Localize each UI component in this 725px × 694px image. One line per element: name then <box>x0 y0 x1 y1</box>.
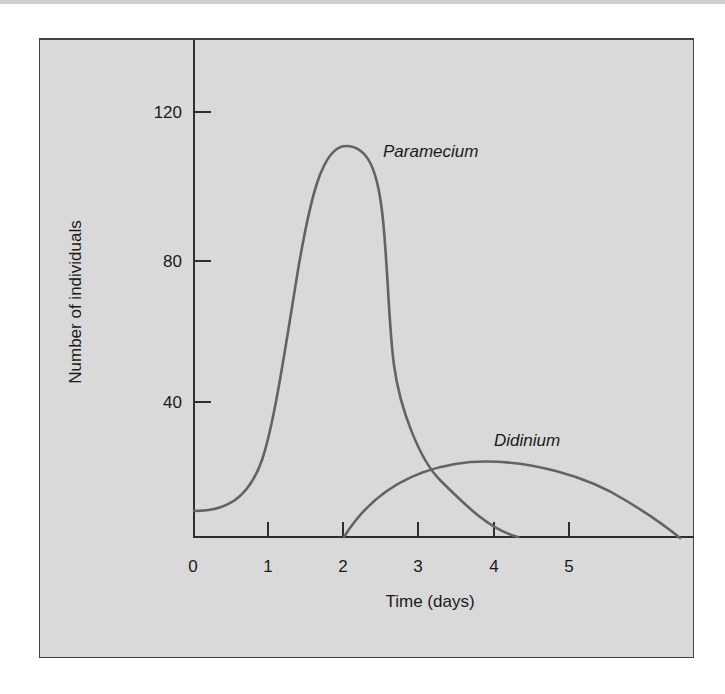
x-tick-label: 3 <box>413 557 422 576</box>
x-tick-label: 5 <box>564 557 573 576</box>
y-tick-label: 40 <box>163 393 182 412</box>
y-ticks <box>194 112 211 402</box>
population-chart: 40 80 120 0 1 2 3 4 5 Time (days) Number… <box>0 0 725 694</box>
y-axis-title: Number of individuals <box>66 220 85 383</box>
didinium-label: Didinium <box>494 431 560 450</box>
paramecium-label: Paramecium <box>383 142 478 161</box>
paramecium-curve <box>194 146 518 537</box>
x-tick-label: 4 <box>489 557 498 576</box>
x-tick-label: 1 <box>263 557 272 576</box>
x-axis-title: Time (days) <box>385 592 474 611</box>
x-ticks <box>268 522 569 537</box>
x-tick-label: 2 <box>338 557 347 576</box>
y-tick-label: 120 <box>154 103 182 122</box>
didinium-curve <box>344 461 680 538</box>
y-tick-label: 80 <box>163 252 182 271</box>
x-tick-label: 0 <box>188 557 197 576</box>
axes <box>193 40 694 538</box>
